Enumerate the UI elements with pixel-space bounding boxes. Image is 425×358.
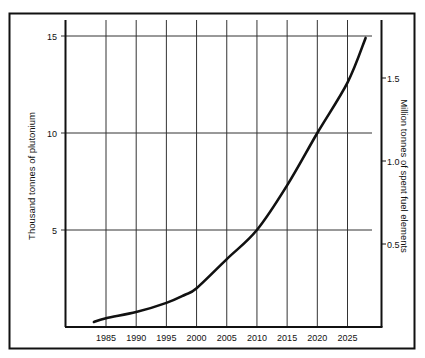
y2-tick-label: 1.5 — [387, 74, 400, 84]
x-tick-label: 1990 — [126, 333, 146, 343]
data-line — [94, 38, 366, 322]
x-tick-labels: 198519901995200020052010201520202025 — [96, 333, 358, 343]
x-tick-label: 1985 — [96, 333, 116, 343]
y-tick-label: 5 — [52, 226, 57, 236]
x-tick-label: 2025 — [337, 333, 357, 343]
y2-tick-label: 1.0 — [387, 157, 400, 167]
y2-tick-label: 0.5 — [387, 240, 400, 250]
y2-axis-title: Million tonnes of spent fuel elements — [399, 99, 410, 253]
chart: 198519901995200020052010201520202025 510… — [0, 0, 425, 358]
x-tick-label: 2020 — [307, 333, 327, 343]
x-tick-label: 2005 — [217, 333, 237, 343]
x-tick-label: 2015 — [277, 333, 297, 343]
y-tick-label: 15 — [47, 32, 57, 42]
horizontal-gridlines — [61, 36, 372, 230]
y-axis-title: Thousand tonnes of plutonium — [26, 112, 37, 240]
x-tick-label: 2000 — [187, 333, 207, 343]
y-tick-label: 10 — [47, 129, 57, 139]
outer-frame — [10, 14, 415, 349]
y2-tick-labels: 0.51.01.5 — [381, 74, 400, 250]
vertical-gridlines — [106, 20, 348, 327]
x-tick-label: 1995 — [156, 333, 176, 343]
y-tick-labels: 51015 — [47, 32, 57, 236]
x-tick-label: 2010 — [247, 333, 267, 343]
